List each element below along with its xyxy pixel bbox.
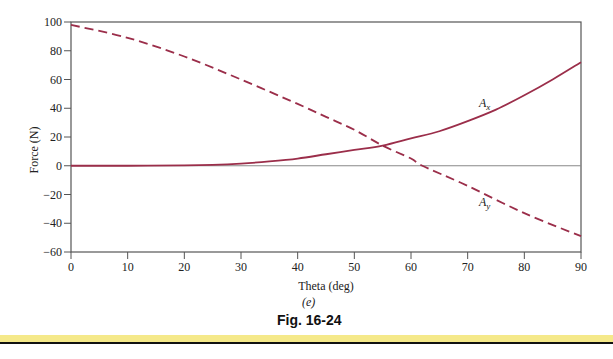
x-tick-label: 10	[122, 260, 134, 274]
y-tick-label: −20	[43, 188, 62, 202]
force-vs-theta-chart: 100806040200−20−40−600102030405060708090…	[0, 0, 613, 300]
x-tick-label: 60	[405, 260, 417, 274]
x-axis-label: Theta (deg)	[298, 279, 354, 293]
y-axis-label: Force (N)	[27, 127, 41, 174]
x-tick-label: 0	[68, 260, 74, 274]
x-tick-label: 80	[518, 260, 530, 274]
plot-axes: 100806040200−20−40−600102030405060708090…	[27, 15, 587, 293]
series-label-a-x: Ax	[478, 96, 490, 112]
y-tick-label: 20	[50, 130, 62, 144]
x-tick-label: 20	[178, 260, 190, 274]
figure-caption: Fig. 16-24	[277, 312, 342, 328]
x-tick-label: 30	[235, 260, 247, 274]
x-tick-label: 90	[575, 260, 587, 274]
x-tick-label: 50	[348, 260, 360, 274]
y-tick-label: 0	[56, 159, 62, 173]
y-tick-label: 40	[50, 101, 62, 115]
series-a-x	[71, 62, 581, 166]
yellow-divider-bar	[0, 335, 613, 342]
y-tick-label: −40	[43, 216, 62, 230]
series-label-a-y: Ay	[478, 195, 490, 211]
y-tick-label: 100	[44, 15, 62, 29]
x-tick-label: 40	[292, 260, 304, 274]
series-a-y	[71, 25, 581, 236]
subcaption: (e)	[302, 295, 315, 310]
y-tick-label: −60	[43, 245, 62, 259]
plot-frame	[71, 22, 581, 252]
x-tick-label: 70	[462, 260, 474, 274]
black-divider-rule	[0, 342, 613, 344]
y-tick-label: 60	[50, 73, 62, 87]
plot-series	[71, 25, 581, 236]
y-tick-label: 80	[50, 44, 62, 58]
